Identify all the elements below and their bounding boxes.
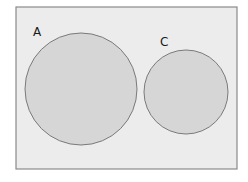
set-a-label: A — [33, 25, 42, 39]
venn-diagram: A C — [0, 0, 248, 182]
set-c-circle — [144, 50, 228, 134]
set-a-circle — [25, 33, 137, 145]
set-c-label: C — [160, 35, 168, 49]
